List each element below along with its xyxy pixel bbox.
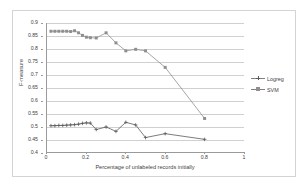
data-point-svm [65,30,68,33]
x-tick-label: 1 [243,155,246,160]
data-point-logreg [49,124,53,128]
data-point-logreg [81,122,85,126]
y-tick-mark [41,114,43,115]
x-axis-title: Percentage of unlabeled records initiall… [46,164,244,171]
y-tick-label: 0.55 [28,111,38,116]
data-point-svm [49,30,52,33]
y-tick-mark [41,153,43,154]
y-tick-label: 0.6 [31,98,38,103]
data-point-logreg [69,123,73,127]
data-point-logreg [65,123,69,127]
y-tick-label: 0.85 [28,33,38,38]
data-point-logreg [77,122,81,126]
data-point-logreg [203,138,207,142]
y-tick-label: 0.8 [31,46,38,51]
y-axis-title: F-measure [18,47,25,99]
y-tick-mark [41,49,43,50]
y-tick-label: 0.5 [31,124,38,129]
x-tick-label: 0.4 [122,155,129,160]
data-point-svm [57,30,60,33]
x-tick-label: 0.6 [161,155,168,160]
plot-area [46,23,244,153]
data-point-svm [77,31,80,34]
y-tick-mark [41,88,43,89]
legend-item-logreg[interactable]: Logreg [251,73,295,84]
data-point-svm [164,66,167,69]
x-tick-mark [204,152,205,154]
legend-item-svm[interactable]: SVM [251,84,295,95]
data-point-logreg [85,121,89,125]
x-tick-mark [125,152,126,154]
data-point-svm [73,29,76,32]
data-point-logreg [53,124,57,128]
x-tick-mark [165,152,166,154]
x-tick-label: 0.8 [201,155,208,160]
legend-label-svm: SVM [267,87,279,93]
legend-key-svm [251,86,265,93]
y-tick-mark [41,62,43,63]
y-tick-mark [41,23,43,24]
y-tick-mark [41,75,43,76]
y-tick-mark [41,101,43,102]
y-tick-label: 0.65 [28,85,38,90]
data-point-logreg [163,132,167,136]
x-tick-mark [244,152,245,154]
data-point-logreg [104,125,108,129]
series-layer [47,23,244,152]
data-point-svm [144,49,147,52]
chart-legend: Logreg SVM [251,73,295,95]
cross-marker-icon [256,76,260,80]
y-tick-mark [41,140,43,141]
legend-label-logreg: Logreg [267,76,284,82]
y-tick-label: 0.45 [28,137,38,142]
y-tick-label: 0.75 [28,59,38,64]
data-point-logreg [73,123,77,127]
square-marker-icon [256,87,260,91]
data-point-svm [85,36,88,39]
data-point-svm [89,36,92,39]
data-point-svm [124,49,127,52]
data-point-svm [114,41,117,44]
data-point-svm [95,36,98,39]
x-tick-mark [86,152,87,154]
data-point-svm [134,48,137,51]
x-tick-mark [46,152,47,154]
series-line-svm [51,31,205,119]
data-point-svm [105,31,108,34]
x-tick-label: 0 [45,155,48,160]
x-tick-label: 0.2 [82,155,89,160]
chart-figure: 0.40.450.50.550.60.650.70.750.80.850.9 0… [12,10,296,177]
y-tick-label: 0.9 [31,20,38,25]
data-point-svm [61,30,64,33]
legend-key-logreg [251,75,265,82]
data-point-svm [69,30,72,33]
data-point-svm [203,117,206,120]
data-point-svm [81,34,84,37]
y-tick-label: 0.7 [31,72,38,77]
data-point-svm [53,30,56,33]
y-tick-mark [41,127,43,128]
data-point-logreg [61,124,65,128]
y-tick-label: 0.4 [31,150,38,155]
data-point-logreg [57,124,61,128]
y-tick-mark [41,36,43,37]
